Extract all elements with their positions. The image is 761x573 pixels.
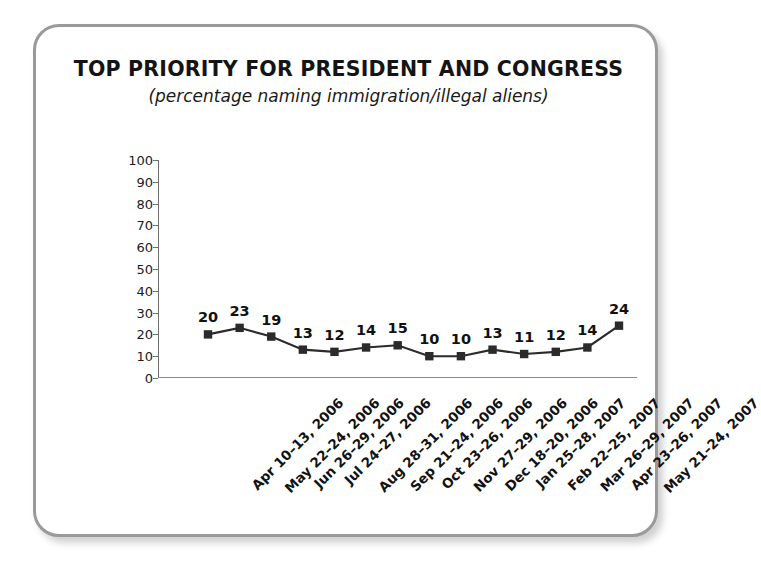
data-point-marker [457,352,465,360]
data-point-label: 23 [230,303,250,319]
data-point-label: 13 [482,325,502,341]
y-tick-label-40: 40 [136,283,153,298]
data-point-label: 14 [577,322,597,338]
chart-title: TOP PRIORITY FOR PRESIDENT AND CONGRESS [36,57,661,81]
data-point-marker [425,352,433,360]
data-point-label: 10 [419,331,439,347]
data-point-marker [330,348,338,356]
data-point-marker [615,321,623,329]
chart-subtitle: (percentage naming immigration/illegal a… [36,86,661,106]
data-point-label: 19 [261,312,281,328]
y-tick-label-60: 60 [136,240,153,255]
data-point-label: 12 [324,327,344,343]
data-point-label: 13 [293,325,313,341]
y-tick-label-80: 80 [136,196,153,211]
y-tick-label-10: 10 [136,349,153,364]
data-point-label: 12 [546,327,566,343]
data-point-label: 15 [388,320,408,336]
title-block: TOP PRIORITY FOR PRESIDENT AND CONGRESS … [36,57,661,106]
line-series [158,160,637,378]
data-point-label: 11 [514,329,534,345]
data-point-label: 10 [451,331,471,347]
data-point-label: 14 [356,322,376,338]
data-point-label: 24 [609,301,629,317]
data-point-marker [235,324,243,332]
data-point-marker [520,350,528,358]
y-tick-label-90: 90 [136,174,153,189]
data-point-label: 20 [198,309,218,325]
y-tick-label-0: 0 [145,371,153,386]
plot-area: 0102030405060708090100 20231913121415101… [158,160,637,378]
data-point-marker [393,341,401,349]
y-tick-label-30: 30 [136,305,153,320]
data-point-marker [488,345,496,353]
data-point-marker [267,332,275,340]
data-point-marker [299,345,307,353]
y-tick-label-50: 50 [136,262,153,277]
y-tick-label-70: 70 [136,218,153,233]
data-point-marker [362,343,370,351]
data-point-marker [583,343,591,351]
data-point-marker [552,348,560,356]
y-tick-label-100: 100 [128,153,153,168]
y-tick-mark-0 [153,378,158,379]
y-tick-label-20: 20 [136,327,153,342]
chart-frame: TOP PRIORITY FOR PRESIDENT AND CONGRESS … [33,24,658,537]
data-point-marker [204,330,212,338]
